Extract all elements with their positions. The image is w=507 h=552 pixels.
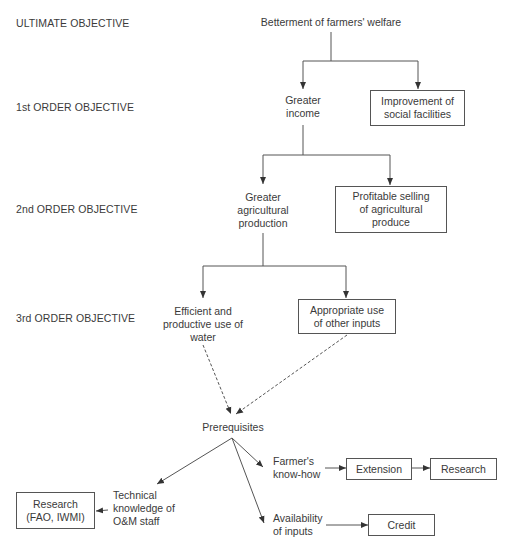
box-text-line: produce (352, 216, 429, 229)
node-text-line: Farmer's (273, 455, 333, 468)
box-text-line: of other inputs (310, 317, 384, 330)
node-farmers-know-how: Farmer's know-how (273, 455, 333, 481)
node-text-line: Greater (268, 94, 338, 107)
node-text: Prerequisites (193, 421, 273, 434)
node-prerequisites: Prerequisites (193, 421, 273, 434)
box-research: Research (430, 458, 497, 480)
node-text: Betterment of farmers' welfare (250, 16, 412, 29)
node-text-line: water (153, 331, 253, 344)
box-text: Research (441, 463, 486, 476)
box-text-line: (FAO, IWMI) (26, 511, 84, 524)
node-text-line: Efficient and (153, 305, 253, 318)
node-text-line: productive use of (153, 318, 253, 331)
node-text-line: Greater (218, 191, 308, 204)
node-text-line: knowledge of (113, 502, 193, 515)
box-text-line: Profitable selling (352, 190, 429, 203)
node-text-line: know-how (273, 468, 333, 481)
box-credit: Credit (368, 514, 435, 536)
box-text: Extension (356, 463, 402, 476)
box-text-line: of agricultural (352, 203, 429, 216)
level-label-first-order: 1st ORDER OBJECTIVE (16, 101, 134, 113)
node-text-line: Availability (273, 512, 333, 525)
box-text: Credit (387, 519, 415, 532)
node-technical-knowledge: Technical knowledge of O&M staff (113, 489, 193, 528)
node-text-line: of inputs (273, 525, 333, 538)
box-appropriate-use-other-inputs: Appropriate use of other inputs (298, 299, 396, 334)
level-label-second-order: 2nd ORDER OBJECTIVE (16, 203, 138, 215)
box-research-fao-iwmi: Research (FAO, IWMI) (16, 492, 95, 529)
node-greater-income: Greater income (268, 94, 338, 120)
node-text-line: income (268, 107, 338, 120)
box-text-line: Improvement of (381, 95, 454, 108)
node-efficient-water-use: Efficient and productive use of water (153, 305, 253, 344)
node-text-line: Technical (113, 489, 193, 502)
box-extension: Extension (346, 458, 412, 480)
box-profitable-selling: Profitable selling of agricultural produ… (335, 186, 447, 233)
node-greater-agricultural-production: Greater agricultural production (218, 191, 308, 230)
box-text-line: Research (26, 498, 84, 511)
level-label-ultimate: ULTIMATE OBJECTIVE (16, 17, 129, 29)
node-text-line: agricultural (218, 204, 308, 217)
box-text-line: social facilities (381, 108, 454, 121)
node-availability-of-inputs: Availability of inputs (273, 512, 333, 538)
box-text-line: Appropriate use (310, 304, 384, 317)
node-farmers-welfare: Betterment of farmers' welfare (250, 16, 412, 29)
node-text-line: production (218, 217, 308, 230)
box-improvement-social-facilities: Improvement of social facilities (370, 90, 465, 126)
node-text-line: O&M staff (113, 515, 193, 528)
level-label-third-order: 3rd ORDER OBJECTIVE (16, 312, 135, 324)
